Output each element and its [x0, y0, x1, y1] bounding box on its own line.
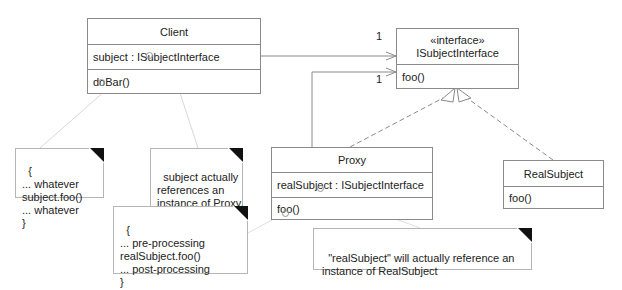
class-name-text: ISubjectInterface — [416, 47, 499, 60]
note-fold-icon — [229, 148, 243, 162]
class-client[interactable]: Client subject : ISubjectInterface doBar… — [87, 18, 261, 94]
class-name: Proxy — [272, 148, 432, 172]
anchor-circle-icon — [146, 52, 153, 59]
anchor-circle-icon — [98, 79, 105, 86]
realization-triangle — [441, 88, 455, 102]
note-fold-icon — [234, 206, 248, 220]
multiplicity-label: 1 — [376, 73, 382, 85]
note-fold-icon — [90, 148, 104, 162]
interface-header: «interface» ISubjectInterface — [397, 29, 518, 64]
note-anchor-line — [40, 90, 106, 148]
class-realsubject[interactable]: RealSubject foo() — [503, 160, 604, 209]
class-operation: doBar() — [88, 69, 260, 93]
class-operation: foo() — [397, 64, 518, 88]
note-proxy-code[interactable]: { ... pre-processing realSubject.foo() .… — [113, 206, 248, 274]
note-fold-icon — [518, 228, 532, 242]
class-operation: foo() — [504, 186, 603, 208]
realization-realsubject — [467, 98, 553, 160]
class-name: RealSubject — [504, 161, 603, 186]
association-proxy-isubject — [312, 72, 396, 147]
realization-proxy — [350, 98, 443, 147]
note-client-code[interactable]: { ... whatever subject.foo() ... whateve… — [15, 148, 104, 198]
anchor-circle-icon — [282, 210, 289, 217]
class-attribute: realSubject : ISubjectInterface — [272, 172, 432, 197]
realization-triangle — [457, 88, 471, 102]
anchor-circle-icon — [317, 185, 324, 192]
note-anchor-line — [180, 93, 198, 148]
class-operation: foo() — [272, 197, 432, 219]
class-name-text: RealSubject — [524, 168, 583, 180]
interface-isubjectinterface[interactable]: «interface» ISubjectInterface foo() — [396, 28, 519, 89]
class-proxy[interactable]: Proxy realSubject : ISubjectInterface fo… — [271, 147, 433, 220]
note-proxy-realsubject[interactable]: "realSubject" will actually reference an… — [313, 228, 532, 270]
stereotype-label: «interface» — [430, 34, 484, 47]
class-attribute: subject : ISubjectInterface — [88, 44, 260, 69]
class-name-text: Proxy — [338, 154, 366, 166]
multiplicity-label: 1 — [376, 30, 382, 42]
class-name: Client — [88, 19, 260, 44]
class-name-text: Client — [160, 26, 188, 38]
